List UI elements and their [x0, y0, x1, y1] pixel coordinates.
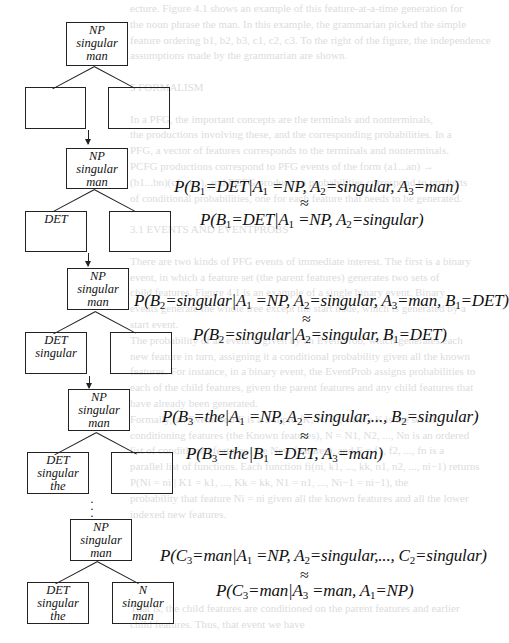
bleed-line: PCFG productions correspond to PFG event… — [130, 160, 496, 173]
bleed-line: assumptions made by the grammarian are s… — [130, 49, 496, 62]
bleed-line: In a PFG, the important concepts are the… — [130, 113, 496, 126]
bleed-line: the noun phrase the man. In this example… — [130, 18, 496, 31]
tree-edge — [97, 561, 139, 584]
ellipsis-vertical-icon: ··· — [87, 498, 97, 519]
tree-edge — [52, 189, 94, 212]
tree-node-right-child — [109, 211, 171, 252]
feature-label: singular — [26, 347, 86, 360]
bleed-line: indexed new features. — [130, 508, 496, 521]
formula-full: P(B2=singular|A1 =NP, A2=singular, A3=ma… — [134, 291, 509, 311]
bleed-line: There are two kinds of PFG events of imm… — [130, 255, 496, 268]
approx-symbol: ≈ — [300, 427, 309, 445]
bleed-line: conditioning features (the Known feature… — [130, 429, 496, 442]
bleed-line: 5 FORMALISM — [130, 81, 496, 94]
feature-label: man — [71, 547, 131, 560]
bleed-line: child features. Thus, that event we have — [130, 618, 496, 631]
tree-node-right-child — [108, 87, 170, 129]
formula-full: P(B3=the|A1 =NP, A2=singular,..., B2=sin… — [162, 407, 478, 427]
formula-reduced: P(B1=DET|A1 =NP, A2=singular) — [200, 210, 423, 230]
down-arrow-icon — [88, 253, 89, 266]
feature-label: man — [68, 296, 128, 309]
tree-node-right-child — [111, 452, 173, 494]
tree-edge — [53, 311, 95, 334]
tree-node-right-child — [110, 332, 172, 374]
feature-label: man — [69, 417, 129, 430]
formula-reduced: P(C3=man|A3 =man, A1=NP) — [216, 581, 413, 601]
feature-label: the — [28, 610, 88, 623]
feature-label: man — [67, 176, 127, 189]
tree-node-left-child: DET singular the — [27, 452, 89, 494]
tree-edge — [55, 561, 97, 584]
tree-node-parent: NP singular man — [66, 148, 128, 189]
tree-node-parent: NP singular man — [70, 519, 132, 561]
formula-full: P(B1=DET|A1 =NP, A2=singular, A3=man) — [174, 177, 459, 197]
tree-node-left-child: DET singular — [25, 332, 87, 374]
bleed-line: P(Ni = ni | K1 = k1, ..., Kk = kk, N1 = … — [130, 476, 496, 489]
bleed-line: ecture. Figure 4.1 shows an example of t… — [130, 2, 496, 15]
tree-node-parent: NP singular man — [66, 22, 128, 66]
feature-label: man — [113, 610, 173, 623]
formula-reduced: P(B3=the|B1 =DET, A3=man) — [186, 444, 383, 464]
down-arrow-icon — [88, 130, 89, 144]
feature-label: DET — [26, 213, 86, 226]
feature-label: the — [28, 480, 88, 493]
bleed-line: new feature in turn, assigning it a cond… — [130, 350, 496, 363]
tree-edge — [94, 189, 135, 212]
formula-full: P(C3=man|A1 =NP, A2=singular,..., C2=sin… — [160, 546, 487, 566]
bleed-line: That is, the child features are conditio… — [130, 602, 496, 615]
tree-edge — [94, 66, 135, 89]
bleed-line: PFG, a vector of features corresponds to… — [130, 144, 496, 157]
tree-node-parent: NP singular man — [68, 389, 130, 431]
tree-node-left-child: DET singular the — [27, 582, 89, 624]
feature-label: man — [67, 50, 127, 63]
bleed-line: event, in which a feature set (the paren… — [130, 271, 496, 284]
down-arrow-icon — [89, 376, 90, 388]
bleed-line: feature ordering b1, b2, b3, c1, c2, c3.… — [130, 34, 496, 47]
bleed-line: features. For instance, in a binary even… — [130, 365, 496, 378]
bleed-line: probability that feature Ni = ni given a… — [130, 492, 496, 505]
formula-reduced: P(B2=singular|A2=singular, B1=DET) — [193, 325, 447, 345]
tree-node-left-child: DET — [25, 211, 87, 252]
tree-edge — [52, 66, 94, 89]
tree-node-right-child: N singular man — [112, 582, 174, 624]
tree-node-parent: NP singular man — [67, 268, 129, 310]
bleed-line: each of the child features, given the pa… — [130, 381, 496, 394]
bleed-line: the productions involving these, and the… — [130, 128, 496, 141]
tree-node-left-child — [25, 87, 86, 129]
